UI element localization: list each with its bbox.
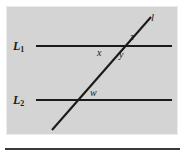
- page-horizontal-rule: [5, 148, 180, 150]
- label-angle-y: y: [119, 50, 123, 60]
- label-transversal: l: [151, 12, 154, 23]
- geometry-lines: [0, 0, 187, 159]
- label-line-2-subscript: 2: [20, 99, 24, 108]
- transversal-line: [52, 17, 151, 130]
- label-angle-z: z: [130, 32, 134, 42]
- geometry-figure: L1 L2 x y z w l: [0, 0, 187, 159]
- label-angle-x: x: [97, 48, 101, 58]
- label-line-1-subscript: 1: [20, 45, 24, 54]
- label-line-2: L2: [13, 94, 24, 108]
- label-line-1: L1: [13, 40, 24, 54]
- label-angle-w: w: [90, 88, 97, 98]
